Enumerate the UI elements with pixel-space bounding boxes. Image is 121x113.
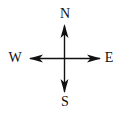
north-label: N xyxy=(57,7,73,21)
south-label: S xyxy=(57,95,73,109)
east-label: E xyxy=(101,51,117,65)
compass-rose: N S W E xyxy=(0,0,121,113)
west-label: W xyxy=(6,51,24,65)
